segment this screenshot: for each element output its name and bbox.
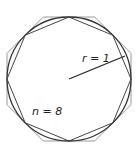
radius-label: r = 1 — [82, 52, 110, 65]
sides-label: n = 8 — [32, 105, 62, 118]
circle-polygon-diagram: r = 1 n = 8 — [0, 0, 137, 150]
